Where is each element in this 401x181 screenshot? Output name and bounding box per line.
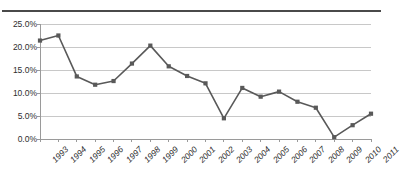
x-axis-tick-label: 2008	[326, 145, 346, 165]
x-axis-tick-label: 2006	[290, 145, 310, 165]
x-axis-tick-label: 2011	[381, 145, 400, 164]
x-axis-tick-label: 1997	[124, 145, 144, 165]
x-axis-tick-label: 2001	[198, 145, 218, 165]
x-axis-tick-label: 1996	[106, 145, 126, 165]
x-axis-tick-label: 1995	[87, 145, 107, 165]
x-axis-tick-label: 1999	[161, 145, 181, 165]
x-axis-tick-label: 2010	[363, 145, 383, 165]
x-axis-tick-label: 2009	[345, 145, 365, 165]
x-axis-tick-label: 2007	[308, 145, 328, 165]
x-axis-tick-label: 2004	[253, 145, 273, 165]
x-axis-tick-label: 2000	[179, 145, 199, 165]
x-axis-tick-label: 2005	[271, 145, 291, 165]
x-axis-tick-label: 2002	[216, 145, 236, 165]
x-axis-tick-label: 1994	[69, 145, 89, 165]
x-axis-tick-label: 1998	[142, 145, 162, 165]
x-axis-tick-label: 1993	[51, 145, 71, 165]
x-axis-tick-label: 2003	[234, 145, 254, 165]
